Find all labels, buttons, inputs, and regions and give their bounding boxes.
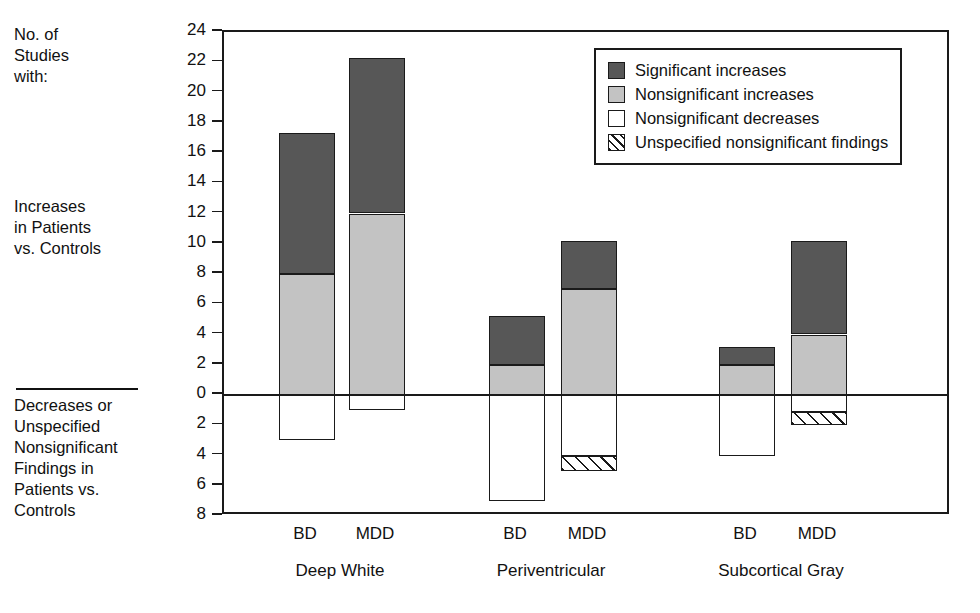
- legend-item: Nonsignificant decreases: [608, 106, 888, 130]
- axis-note-divider: [16, 388, 138, 390]
- legend: Significant increases Nonsignificant inc…: [594, 48, 902, 165]
- y-tick: [212, 392, 222, 394]
- bar-segment-nonsignificant-increases: [489, 365, 545, 395]
- y-tick: [212, 211, 222, 213]
- y-tick: [212, 150, 222, 152]
- bar-segment-nonsignificant-increases: [279, 274, 335, 395]
- bar-deep-white-mdd: [349, 32, 405, 512]
- y-tick: [212, 29, 222, 31]
- x-tick-label-mdd: MDD: [777, 524, 857, 544]
- x-group-label: Deep White: [230, 561, 450, 581]
- legend-item: Nonsignificant increases: [608, 82, 888, 106]
- y-tick-label: 8: [172, 263, 206, 280]
- y-tick: [212, 362, 222, 364]
- y-tick: [212, 332, 222, 334]
- axis-note-top: No. of Studies with:: [14, 24, 69, 87]
- y-tick-label: 24: [172, 21, 206, 38]
- bar-deep-white-bd: [279, 32, 335, 512]
- legend-label: Nonsignificant increases: [635, 85, 814, 104]
- bar-segment-nonsignificant-increases: [561, 289, 617, 395]
- x-group-label: Periventricular: [441, 561, 661, 581]
- y-tick: [212, 483, 222, 485]
- zero-baseline: [224, 394, 947, 396]
- bar-segment-nonsignificant-increases: [791, 335, 847, 396]
- legend-label: Nonsignificant decreases: [635, 109, 819, 128]
- y-tick-label: 0: [172, 384, 206, 401]
- x-tick-label-bd: BD: [475, 524, 555, 544]
- x-tick-label-bd: BD: [705, 524, 785, 544]
- y-tick-label: 10: [172, 233, 206, 250]
- bar-segment-nonsignificant-decreases: [561, 395, 617, 456]
- y-tick-label: 18: [172, 112, 206, 129]
- y-tick-label: 6: [172, 293, 206, 310]
- y-tick: [212, 423, 222, 425]
- bar-segment-nonsignificant-decreases: [279, 395, 335, 440]
- legend-label: Unspecified nonsignificant findings: [635, 133, 888, 152]
- bar-segment-unspecified-findings: [791, 412, 847, 426]
- bar-segment-significant-increases: [719, 347, 775, 365]
- y-tick: [212, 453, 222, 455]
- bar-segment-significant-increases: [791, 241, 847, 335]
- y-tick: [212, 90, 222, 92]
- y-tick: [212, 120, 222, 122]
- y-tick: [212, 302, 222, 304]
- y-tick: [212, 241, 222, 243]
- legend-item: Significant increases: [608, 58, 888, 82]
- bar-periventricular-bd: [489, 32, 545, 512]
- bar-segment-unspecified-findings: [561, 456, 617, 471]
- legend-label: Significant increases: [635, 61, 786, 80]
- bar-segment-significant-increases: [279, 133, 335, 274]
- y-tick: [212, 513, 222, 515]
- y-tick: [212, 271, 222, 273]
- bar-segment-significant-increases: [561, 241, 617, 289]
- y-tick-label: 6: [172, 475, 206, 492]
- y-tick: [212, 181, 222, 183]
- bar-segment-nonsignificant-increases: [719, 365, 775, 395]
- y-tick-label: 20: [172, 82, 206, 99]
- y-tick-label: 4: [172, 445, 206, 462]
- y-tick-label: 2: [172, 354, 206, 371]
- bar-segment-nonsignificant-decreases: [791, 395, 847, 412]
- chart-figure: No. of Studies with: Increases in Patien…: [0, 0, 980, 613]
- legend-item: Unspecified nonsignificant findings: [608, 130, 888, 154]
- x-tick-label-mdd: MDD: [335, 524, 415, 544]
- x-tick-label-mdd: MDD: [547, 524, 627, 544]
- y-tick-label: 16: [172, 142, 206, 159]
- legend-swatch-significant-increases-icon: [608, 62, 625, 79]
- axis-note-increases: Increases in Patients vs. Controls: [14, 196, 101, 259]
- bar-segment-nonsignificant-decreases: [719, 395, 775, 456]
- bar-segment-significant-increases: [489, 316, 545, 364]
- y-tick-label: 2: [172, 414, 206, 431]
- y-tick-label: 14: [172, 172, 206, 189]
- legend-swatch-nonsignificant-decreases-icon: [608, 110, 625, 127]
- axis-note-decreases: Decreases or Unspecified Nonsignificant …: [14, 395, 118, 521]
- legend-swatch-nonsignificant-increases-icon: [608, 86, 625, 103]
- x-group-label: Subcortical Gray: [671, 561, 891, 581]
- bar-segment-nonsignificant-decreases: [489, 395, 545, 501]
- y-tick-label: 12: [172, 203, 206, 220]
- bar-segment-significant-increases: [349, 58, 405, 214]
- x-tick-label-bd: BD: [265, 524, 345, 544]
- bar-segment-nonsignificant-increases: [349, 214, 405, 396]
- legend-swatch-unspecified-findings-icon: [608, 134, 625, 151]
- y-tick: [212, 60, 222, 62]
- y-tick-label: 4: [172, 324, 206, 341]
- y-tick-label: 22: [172, 51, 206, 68]
- y-tick-label: 8: [172, 505, 206, 522]
- bar-segment-nonsignificant-decreases: [349, 395, 405, 410]
